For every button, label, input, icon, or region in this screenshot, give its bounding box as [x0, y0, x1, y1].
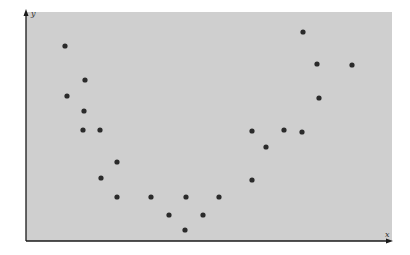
- data-point: [182, 227, 187, 232]
- data-point: [200, 212, 205, 217]
- data-point: [300, 29, 305, 34]
- x-axis-label: x: [385, 230, 390, 239]
- data-point: [249, 177, 254, 182]
- data-point: [299, 129, 304, 134]
- data-point: [114, 159, 119, 164]
- data-point: [166, 212, 171, 217]
- data-point: [80, 127, 85, 132]
- data-point: [114, 194, 119, 199]
- data-point: [183, 194, 188, 199]
- data-point: [216, 194, 221, 199]
- data-point: [81, 108, 86, 113]
- data-point: [98, 175, 103, 180]
- data-point: [97, 127, 102, 132]
- data-point: [349, 62, 354, 67]
- data-point: [263, 144, 268, 149]
- data-point: [314, 61, 319, 66]
- data-point: [62, 43, 67, 48]
- data-point: [82, 77, 87, 82]
- plot-area: [26, 12, 392, 241]
- data-point: [148, 194, 153, 199]
- data-point: [281, 127, 286, 132]
- scatter-chart: y x: [0, 0, 410, 255]
- data-point: [64, 93, 69, 98]
- y-axis-label: y: [30, 9, 36, 18]
- data-point: [316, 95, 321, 100]
- data-point: [249, 128, 254, 133]
